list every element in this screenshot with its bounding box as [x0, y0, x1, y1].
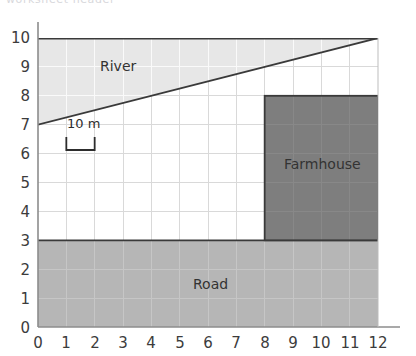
y-tick-label: 6: [4, 147, 30, 162]
x-tick-label: 7: [224, 336, 248, 351]
y-tick-label: 4: [4, 205, 30, 220]
y-tick-label: 9: [4, 60, 30, 75]
x-tick-label: 8: [253, 336, 277, 351]
x-tick-label: 9: [281, 336, 305, 351]
diagram-figure: worksheet header: [0, 0, 416, 356]
x-tick-label: 5: [168, 336, 192, 351]
x-tick-label: 1: [54, 336, 78, 351]
y-tick-label: 8: [4, 89, 30, 104]
x-tick-label: 4: [139, 336, 163, 351]
x-tick-label: 12: [366, 336, 390, 351]
axis-lines: [0, 0, 416, 356]
y-tick-label: 2: [4, 263, 30, 278]
x-tick-label: 10: [309, 336, 333, 351]
y-tick-label: 5: [4, 176, 30, 191]
y-tick-label: 1: [4, 292, 30, 307]
x-tick-label: 0: [26, 336, 50, 351]
x-tick-label: 11: [338, 336, 362, 351]
x-tick-label: 2: [83, 336, 107, 351]
y-tick-label: 10: [4, 31, 30, 46]
y-tick-label: 3: [4, 234, 30, 249]
x-tick-label: 3: [111, 336, 135, 351]
x-tick-label: 6: [196, 336, 220, 351]
y-tick-label: 7: [4, 118, 30, 133]
y-tick-label: 0: [4, 321, 30, 336]
